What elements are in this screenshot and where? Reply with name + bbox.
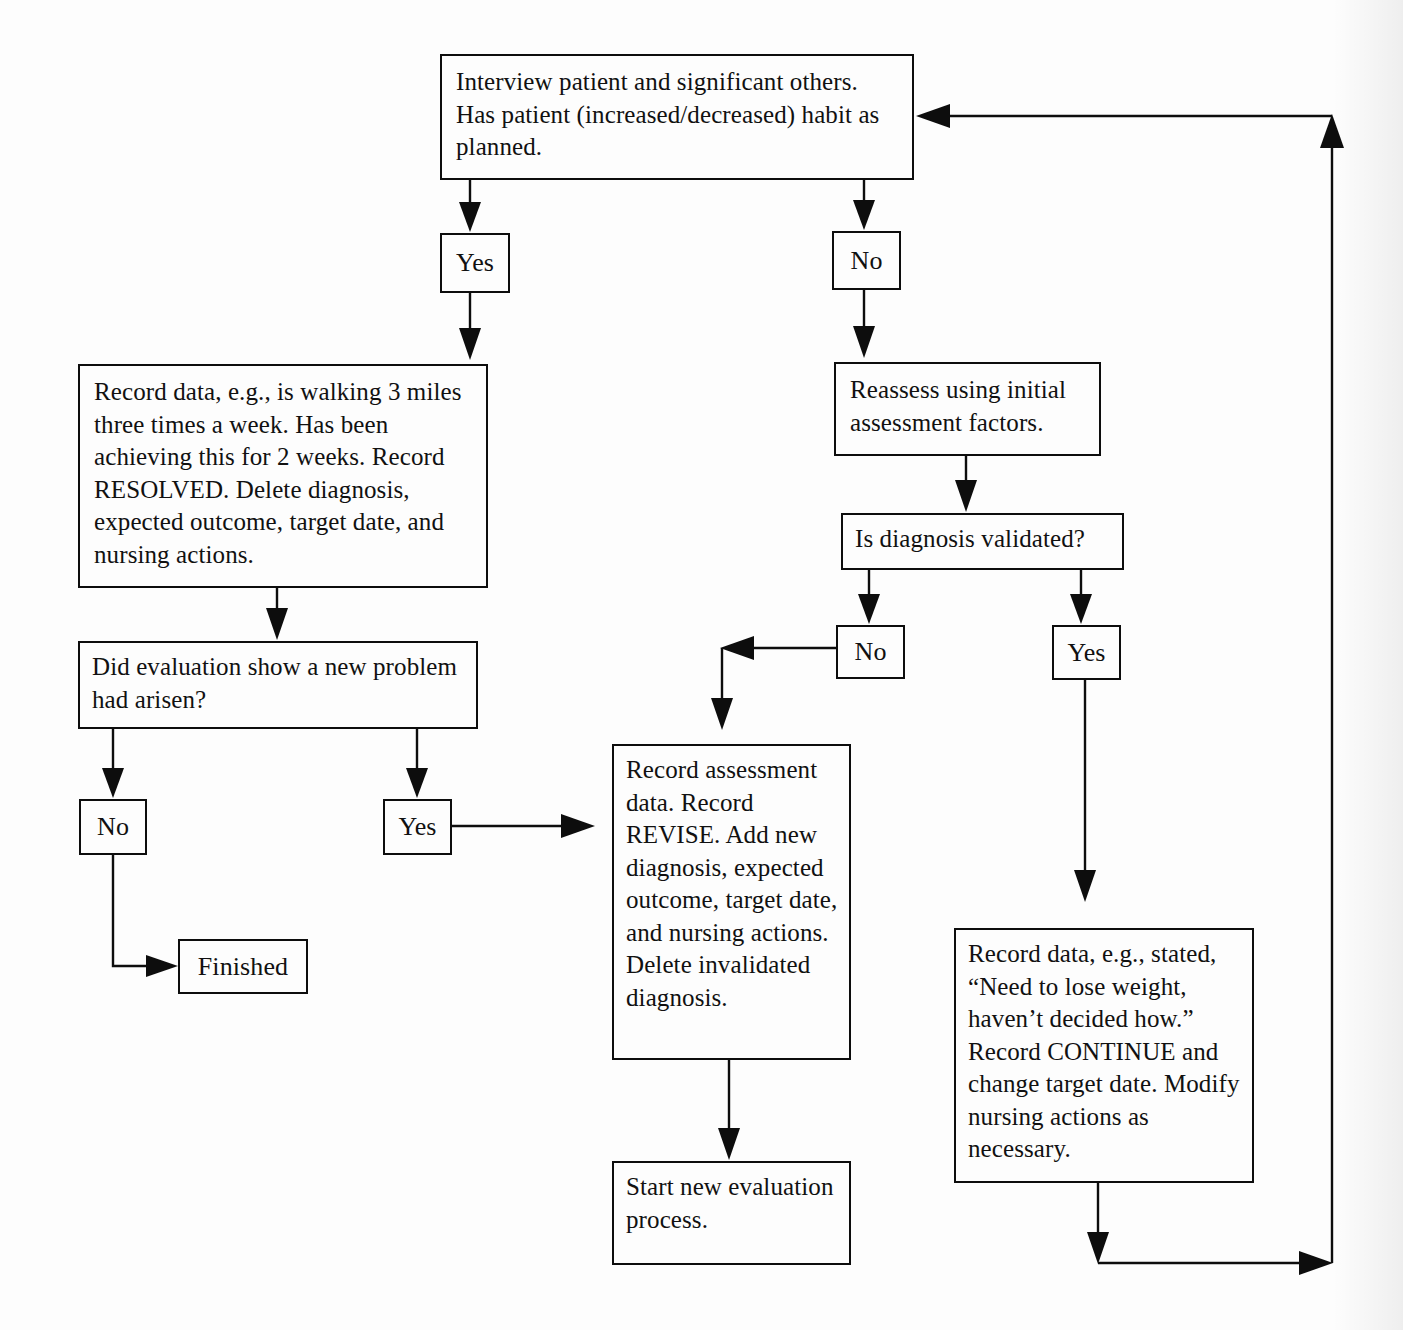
node-no-top: No (832, 231, 901, 290)
edge-interview-to-no (853, 180, 875, 230)
node-reassess: Reassess using initial assessment factor… (834, 362, 1101, 456)
node-did-evaluation: Did evaluation show a new problem had ar… (78, 641, 478, 729)
edge-no-to-reassess (853, 290, 875, 358)
node-yes-newproblem-label: Yes (398, 814, 436, 840)
edge-record-resolved-to-did-evaluation (266, 588, 288, 640)
edge-no-validated-to-record-revise (711, 636, 836, 730)
node-start-new: Start new evaluation process. (612, 1161, 851, 1265)
node-yes-validated: Yes (1052, 625, 1121, 680)
node-no-newproblem: No (79, 799, 147, 855)
flowchart-page: Interview patient and significant others… (0, 0, 1403, 1330)
node-record-resolved: Record data, e.g., is walking 3 miles th… (78, 364, 488, 588)
node-record-revise-label: Record assessment data. Record REVISE. A… (626, 756, 837, 1011)
edge-record-revise-to-start-new (718, 1060, 740, 1160)
node-yes-validated-label: Yes (1067, 640, 1105, 666)
edge-did-evaluation-to-yes (406, 728, 428, 798)
edge-interview-to-yes (459, 180, 481, 232)
node-is-validated-label: Is diagnosis validated? (855, 525, 1085, 552)
node-no-top-label: No (851, 248, 883, 274)
edge-yes-to-record-resolved (459, 292, 481, 360)
node-is-validated: Is diagnosis validated? (841, 513, 1124, 570)
edge-is-validated-to-yes (1070, 570, 1092, 624)
node-interview: Interview patient and significant others… (440, 54, 914, 180)
node-finished-label: Finished (198, 954, 288, 980)
node-record-revise: Record assessment data. Record REVISE. A… (612, 744, 851, 1060)
node-reassess-label: Reassess using initial assessment factor… (850, 376, 1066, 436)
node-interview-label: Interview patient and significant others… (456, 68, 879, 160)
node-start-new-label: Start new evaluation process. (626, 1173, 834, 1233)
edge-yes-validated-to-record-continue (1074, 680, 1096, 902)
node-record-resolved-label: Record data, e.g., is walking 3 miles th… (94, 378, 462, 568)
edge-is-validated-to-no (858, 570, 880, 624)
node-no-newproblem-label: No (97, 814, 129, 840)
edge-yes-to-record-revise (452, 814, 595, 838)
node-record-continue: Record data, e.g., stated, “Need to lose… (954, 928, 1254, 1183)
node-finished: Finished (178, 939, 308, 994)
edge-did-evaluation-to-no (102, 728, 124, 798)
node-yes-top: Yes (440, 233, 510, 293)
node-did-evaluation-label: Did evaluation show a new problem had ar… (92, 653, 457, 713)
node-record-continue-label: Record data, e.g., stated, “Need to lose… (968, 940, 1239, 1162)
node-yes-newproblem: Yes (383, 799, 452, 855)
edge-reassess-to-is-validated (955, 455, 977, 512)
node-yes-top-label: Yes (456, 250, 494, 276)
edge-no-to-finished (113, 854, 178, 977)
node-no-validated-label: No (855, 639, 887, 665)
node-no-validated: No (836, 625, 905, 679)
